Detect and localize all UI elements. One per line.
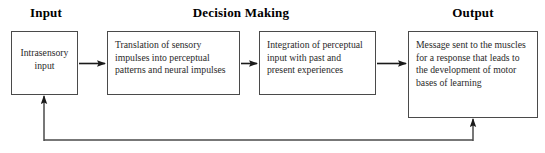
flow-diagram: Input Decision Making Output Intrasensor… — [0, 0, 545, 153]
connector-layer — [0, 0, 545, 153]
